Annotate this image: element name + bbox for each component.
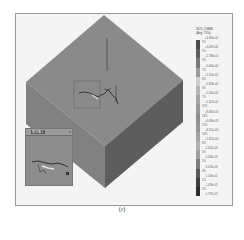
- legend-value: +3.037e-02: [205, 46, 218, 49]
- legend-band: [196, 114, 200, 123]
- legend-band: [196, 58, 200, 67]
- legend-band: [196, 141, 200, 150]
- inset-title: 放大图 1: [31, 130, 45, 134]
- inset-crack-view: [26, 136, 72, 186]
- legend-percent: 5%: [202, 59, 206, 62]
- legend-band: [196, 95, 200, 104]
- legend-percent: 3%: [202, 170, 206, 173]
- inset-crack-path: [32, 161, 68, 167]
- legend-percent: 6%: [202, 87, 206, 90]
- legend-value: +2.440e-02: [205, 65, 218, 68]
- legend-band: [196, 104, 200, 113]
- legend-percent: 11%: [202, 105, 207, 108]
- legend-percent: 5%: [202, 50, 206, 53]
- legend-band: [196, 187, 200, 196]
- inset-marker: [66, 172, 69, 175]
- legend-band: [196, 178, 200, 187]
- legend-band: [196, 77, 200, 86]
- zoom-inset-window: 放大图 1 ×: [25, 128, 73, 186]
- legend-value: +9.482e-03: [205, 111, 218, 114]
- legend-value: +3.515e-03: [205, 129, 218, 132]
- legend-row: -1.737e-02: [201, 194, 231, 203]
- legend-percent: 13%: [202, 115, 207, 118]
- legend-value: -5.436e-03: [205, 156, 218, 159]
- legend-labels: +3.335e-025%+3.037e-025%+2.738e-025%+2.4…: [201, 38, 231, 203]
- figure-caption: (c): [0, 206, 244, 212]
- legend-value: -8.419e-03: [205, 166, 218, 169]
- legend-percent: 6%: [202, 78, 206, 81]
- legend-percent: 7%: [202, 96, 206, 99]
- legend-percent: 5%: [202, 151, 206, 154]
- inset-crack-highlight: [42, 166, 54, 169]
- legend-value: -1.439e-02: [205, 184, 218, 187]
- legend-value: -1.140e-02: [205, 175, 218, 178]
- legend-header: SDV_CNBM(Avg: 75%): [196, 28, 230, 35]
- legend-value: -2.452e-03: [205, 147, 218, 150]
- legend-value: +1.247e-02: [205, 101, 218, 104]
- legend-percent: 7%: [202, 69, 206, 72]
- legend-band: [196, 132, 200, 141]
- legend-value: +1.843e-02: [205, 83, 218, 86]
- legend-band: [196, 159, 200, 168]
- legend-value: +3.335e-02: [205, 37, 218, 40]
- legend-band: [196, 49, 200, 58]
- legend-averaging: (Avg: 75%): [196, 31, 211, 35]
- legend-band: [196, 150, 200, 159]
- legend-band: [196, 68, 200, 77]
- legend-percent: 2%: [202, 188, 206, 191]
- legend-percent: 10%: [202, 133, 207, 136]
- inset-title-bar: 放大图 1 ×: [26, 129, 72, 136]
- legend-value: -1.737e-02: [205, 193, 218, 196]
- legend-value: +1.545e-02: [205, 92, 218, 95]
- legend-value: +2.738e-02: [205, 55, 218, 58]
- legend-value: +2.142e-02: [205, 74, 218, 77]
- legend-value: +5.312e-04: [205, 138, 218, 141]
- legend-value: +6.498e-03: [205, 120, 218, 123]
- legend-percent: 2%: [202, 179, 206, 182]
- legend-band: [196, 40, 200, 49]
- legend-color-bar: [196, 40, 200, 196]
- inset-crack-branch: [38, 164, 46, 174]
- close-icon[interactable]: ×: [69, 129, 71, 134]
- legend-band: [196, 169, 200, 178]
- legend-percent: 12%: [202, 124, 207, 127]
- legend-band: [196, 123, 200, 132]
- contour-legend: SDV_CNBM(Avg: 75%) +3.335e-025%+3.037e-0…: [196, 28, 230, 200]
- legend-percent: 5%: [202, 160, 206, 163]
- legend-percent: 5%: [202, 41, 206, 44]
- legend-percent: 8%: [202, 142, 206, 145]
- legend-band: [196, 86, 200, 95]
